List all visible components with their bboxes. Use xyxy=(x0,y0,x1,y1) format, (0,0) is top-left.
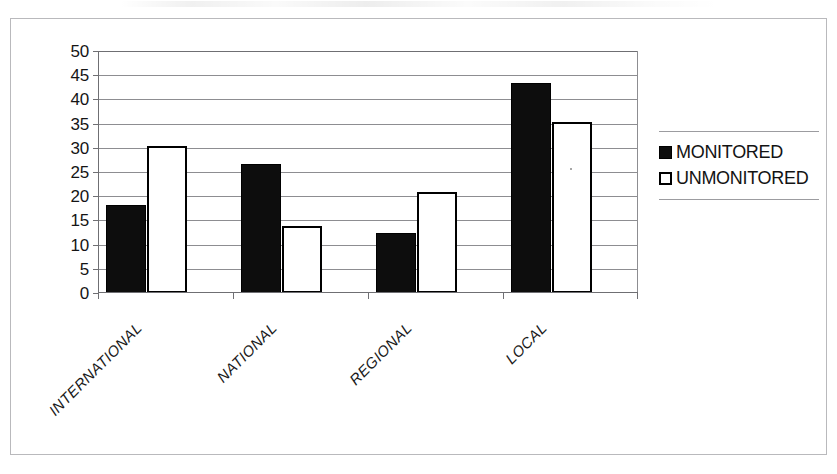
filled-square-icon xyxy=(659,146,672,159)
y-axis-tick-label: 30 xyxy=(70,139,89,156)
legend-bottom-rule xyxy=(659,199,819,200)
legend-items: MONITOREDUNMONITORED xyxy=(659,132,819,199)
bar-regional-unmonitored xyxy=(417,192,457,293)
category-tick-mark xyxy=(98,293,99,299)
bar-international-monitored xyxy=(106,205,146,293)
legend-item-monitored: MONITORED xyxy=(659,139,819,165)
x-axis-label-local: LOCAL xyxy=(501,319,549,367)
y-axis-tick-label: 20 xyxy=(70,188,89,205)
y-axis-tick-label: 15 xyxy=(70,212,89,229)
category-tick-mark xyxy=(503,293,504,299)
bar-national-unmonitored xyxy=(282,226,322,293)
bar-local-unmonitored xyxy=(552,122,592,293)
y-axis-tick-label: 10 xyxy=(70,236,89,253)
y-axis-tick-label: 25 xyxy=(70,164,89,181)
bar-international-unmonitored xyxy=(147,146,187,293)
legend-label: MONITORED xyxy=(676,143,783,161)
bar-local-monitored xyxy=(511,83,551,293)
y-axis-tick-label: 0 xyxy=(80,285,89,302)
legend-item-unmonitored: UNMONITORED xyxy=(659,165,819,191)
bar-national-monitored xyxy=(241,164,281,293)
chart-legend: MONITOREDUNMONITORED xyxy=(659,131,819,200)
figure-root: 05101520253035404550 INTERNATIONALNATION… xyxy=(0,0,837,474)
gridline xyxy=(98,51,638,52)
y-axis-tick-label: 40 xyxy=(70,91,89,108)
scan-artifact-strip xyxy=(120,1,720,7)
y-axis-tick-label: 45 xyxy=(70,67,89,84)
x-axis-label-national: NATIONAL xyxy=(213,319,280,386)
plot-right-border xyxy=(637,51,638,293)
bar-regional-monitored xyxy=(376,233,416,293)
gridline xyxy=(98,99,638,100)
x-axis-label-international: INTERNATIONAL xyxy=(45,319,145,419)
category-tick-mark xyxy=(368,293,369,299)
outlined-square-icon xyxy=(659,172,672,185)
x-axis-line xyxy=(98,292,638,293)
category-tick-mark xyxy=(637,293,638,299)
category-tick-mark xyxy=(233,293,234,299)
legend-label: UNMONITORED xyxy=(676,169,808,187)
plot-area: 05101520253035404550 xyxy=(98,51,638,293)
gridline xyxy=(98,75,638,76)
y-axis-tick-label: 35 xyxy=(70,115,89,132)
y-axis-tick-label: 50 xyxy=(70,43,89,60)
x-axis-label-regional: REGIONAL xyxy=(345,319,414,388)
y-axis-tick-label: 5 xyxy=(80,260,89,277)
chart-frame: 05101520253035404550 INTERNATIONALNATION… xyxy=(10,18,827,455)
y-axis-line xyxy=(98,51,99,293)
